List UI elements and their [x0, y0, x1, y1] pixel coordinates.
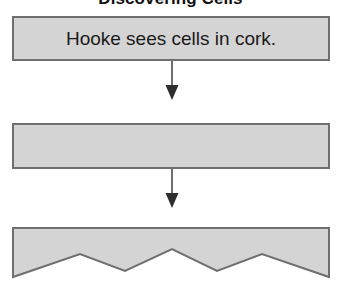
arrow-down-icon-1 — [161, 61, 183, 101]
arrow-down-icon-2 — [161, 169, 183, 209]
flow-step-1: Hooke sees cells in cork. — [12, 16, 330, 61]
flow-step-1-label: Hooke sees cells in cork. — [66, 29, 276, 48]
diagram-page: Discovering Cells Hooke sees cells in co… — [0, 0, 341, 292]
flow-step-2 — [12, 123, 330, 169]
page-title-text: Discovering Cells — [0, 0, 341, 9]
flow-step-3 — [12, 227, 330, 292]
page-title: Discovering Cells — [0, 0, 341, 9]
